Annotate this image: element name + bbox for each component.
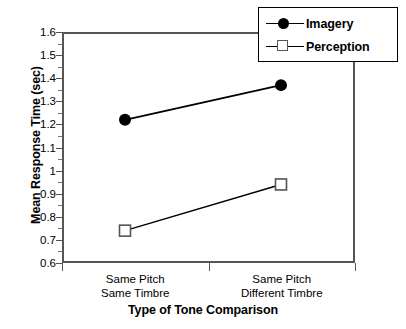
y-tick-label: 1.1 [16, 142, 56, 153]
x-tick-label: Same PitchSame Timbre [60, 273, 210, 300]
x-tick-label: Same PitchDifferent Timbre [207, 273, 357, 300]
filled-circle-marker-icon [264, 14, 306, 34]
y-tick-label: 0.9 [16, 188, 56, 199]
y-tick-label: 1.3 [16, 96, 56, 107]
legend-item-imagery[interactable]: Imagery [259, 12, 397, 35]
x-axis-title: Type of Tone Comparison [0, 303, 406, 317]
x-tick-mark [62, 263, 63, 271]
y-tick-label: 0.8 [16, 211, 56, 222]
y-tick-label: 1.6 [16, 27, 56, 38]
open-square-marker-icon [264, 37, 306, 57]
chart-legend: Imagery Perception [258, 7, 398, 62]
y-tick-label: 1.2 [16, 119, 56, 130]
y-tick-label: 1.4 [16, 73, 56, 84]
y-tick-label: 1.5 [16, 50, 56, 61]
x-tick-mark [209, 263, 210, 271]
y-tick-label: 0.6 [16, 258, 56, 269]
line-chart: Mean Response Time (sec) 1.61.51.41.31.2… [0, 0, 406, 329]
y-tick-label: 0.7 [16, 234, 56, 245]
legend-label-imagery: Imagery [306, 17, 353, 31]
y-tick-label: 1 [16, 165, 56, 176]
legend-item-perception[interactable]: Perception [259, 35, 397, 58]
x-tick-mark [355, 263, 356, 271]
legend-label-perception: Perception [306, 40, 370, 54]
plot-area [62, 32, 355, 263]
